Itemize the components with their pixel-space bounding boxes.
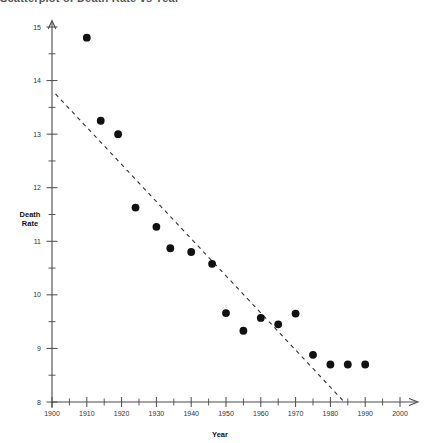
x-tick-label: 2000: [392, 410, 408, 417]
data-point: [222, 309, 230, 317]
y-axis-title-line2: Rate: [22, 219, 38, 228]
y-tick-label: 9: [37, 345, 41, 352]
x-tick-label: 1920: [114, 410, 130, 417]
x-tick-label: 1970: [288, 410, 304, 417]
y-tick-label: 14: [33, 77, 41, 84]
data-point: [83, 34, 91, 42]
data-point: [257, 314, 265, 322]
data-point: [114, 130, 122, 138]
data-point: [97, 117, 105, 125]
trend-line-segment: [55, 94, 344, 402]
x-axis: 1900191019201930194019501960197019801990…: [44, 397, 418, 439]
data-point: [153, 223, 161, 231]
x-axis-tick-labels: 1900191019201930194019501960197019801990…: [44, 410, 408, 417]
data-point: [187, 248, 195, 256]
data-point: [166, 244, 174, 252]
data-point: [309, 351, 317, 359]
y-tick-label: 10: [33, 291, 41, 298]
data-point: [208, 260, 216, 268]
data-point: [240, 327, 248, 335]
data-point: [344, 361, 352, 369]
y-tick-label: 11: [34, 238, 41, 245]
x-tick-label: 1900: [44, 410, 60, 417]
y-tick-label: 15: [33, 24, 41, 31]
data-point: [361, 361, 369, 369]
data-point: [274, 320, 282, 328]
y-tick-label: 8: [37, 399, 41, 406]
x-tick-label: 1930: [149, 410, 165, 417]
y-tick-label: 12: [33, 184, 41, 191]
trend-line: [55, 94, 344, 402]
data-point: [292, 310, 300, 318]
x-tick-label: 1990: [357, 410, 373, 417]
x-tick-label: 1940: [183, 410, 199, 417]
scatter-plot: 89101112131415 Death Rate 19001910192019…: [0, 0, 428, 443]
y-tick-label: 13: [33, 131, 41, 138]
data-points: [83, 34, 369, 369]
x-tick-label: 1950: [218, 410, 234, 417]
x-tick-label: 1980: [323, 410, 339, 417]
data-point: [327, 361, 335, 369]
x-tick-label: 1960: [253, 410, 269, 417]
y-axis: 89101112131415 Death Rate: [20, 21, 58, 409]
data-point: [132, 204, 140, 212]
chart-container: Scatterplot of Death Rate vs Year 891011…: [0, 0, 428, 443]
x-axis-title: Year: [212, 430, 228, 439]
x-tick-label: 1910: [79, 410, 95, 417]
y-axis-title-line1: Death: [20, 210, 41, 219]
